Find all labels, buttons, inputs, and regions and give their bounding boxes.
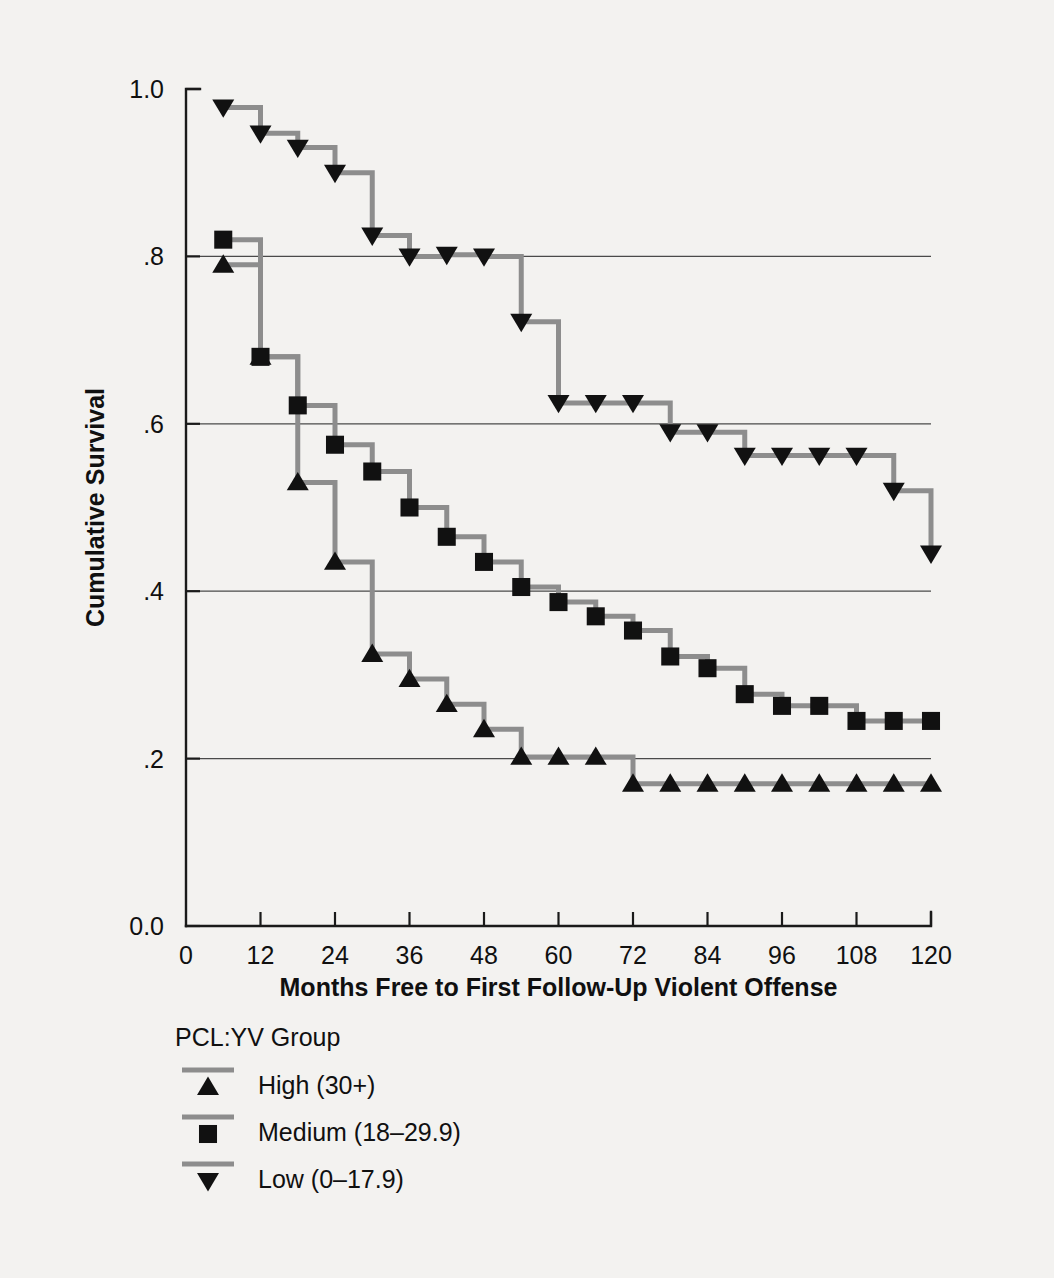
y-tick-label-group: 0.0.2.4.6.81.0 — [129, 75, 164, 940]
series-high — [212, 254, 942, 791]
x-axis-title: Months Free to First Follow-Up Violent O… — [280, 973, 838, 1001]
x-tick-label-group: 01224364860728496108120 — [179, 941, 952, 969]
marker-square — [289, 396, 307, 414]
axis-group — [186, 89, 931, 926]
marker-square — [214, 231, 232, 249]
marker-square — [400, 498, 418, 516]
marker-square — [736, 685, 754, 703]
y-tick-label: .2 — [143, 745, 164, 773]
x-tick-label: 12 — [247, 941, 275, 969]
marker-square — [922, 712, 940, 730]
km-step-line — [223, 107, 931, 553]
marker-square — [438, 528, 456, 546]
x-tick-label: 72 — [619, 941, 647, 969]
series-low — [212, 99, 942, 563]
x-tick-label: 120 — [910, 941, 952, 969]
x-tick-label: 0 — [179, 941, 193, 969]
x-tick-label: 36 — [396, 941, 424, 969]
kaplan-meier-survival-chart: 0.0.2.4.6.81.0 01224364860728496108120 C… — [0, 0, 1054, 1278]
y-axis-line — [186, 89, 200, 926]
legend-title: PCL:YV Group — [175, 1023, 340, 1051]
marker-square — [624, 622, 642, 640]
marker-square — [549, 593, 567, 611]
x-tick-label: 48 — [470, 941, 498, 969]
marker-square — [512, 578, 530, 596]
marker-square — [847, 712, 865, 730]
survival-chart-figure: 0.0.2.4.6.81.0 01224364860728496108120 C… — [0, 0, 1054, 1278]
y-tick-label: .6 — [143, 410, 164, 438]
x-tick-label: 24 — [321, 941, 349, 969]
x-tick-label: 60 — [545, 941, 573, 969]
legend-label-0: High (30+) — [258, 1071, 375, 1099]
y-axis-title: Cumulative Survival — [81, 388, 109, 627]
data-series-group — [212, 99, 942, 791]
marker-square — [661, 647, 679, 665]
legend-label-2: Low (0–17.9) — [258, 1165, 404, 1193]
marker-square — [199, 1125, 217, 1143]
y-tick-label: 1.0 — [129, 75, 164, 103]
marker-triangle-down — [920, 546, 942, 564]
marker-square — [363, 462, 381, 480]
y-tick-group — [186, 89, 200, 926]
marker-square — [251, 348, 269, 366]
legend-label-1: Medium (18–29.9) — [258, 1118, 461, 1146]
x-tick-label: 96 — [768, 941, 796, 969]
marker-square — [326, 436, 344, 454]
x-tick-group — [261, 912, 932, 926]
marker-square — [698, 659, 716, 677]
legend: PCL:YV Group High (30+)Medium (18–29.9)L… — [175, 1023, 461, 1193]
y-tick-label: 0.0 — [129, 912, 164, 940]
marker-square — [773, 697, 791, 715]
x-tick-label: 84 — [694, 941, 722, 969]
marker-square — [810, 697, 828, 715]
y-tick-label: .4 — [143, 577, 164, 605]
y-tick-label: .8 — [143, 242, 164, 270]
marker-triangle-down — [197, 1173, 219, 1191]
x-tick-label: 108 — [836, 941, 878, 969]
marker-triangle-up — [197, 1077, 219, 1095]
marker-square — [475, 553, 493, 571]
marker-square — [885, 712, 903, 730]
marker-square — [587, 607, 605, 625]
